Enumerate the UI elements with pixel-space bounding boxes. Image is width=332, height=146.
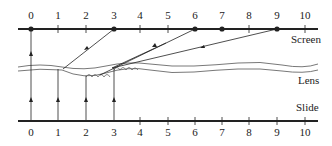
slide-tick-6: 6 xyxy=(192,126,198,138)
slide-tick-labels: 0 1 2 3 4 5 6 7 8 9 10 xyxy=(28,126,311,138)
slide-tick-0: 0 xyxy=(28,126,34,138)
lens-label: Lens xyxy=(298,74,319,86)
slide-tick-10: 10 xyxy=(300,126,312,138)
lens-upper-surface xyxy=(18,62,318,68)
slide-tick-4: 4 xyxy=(137,126,143,138)
screen-label: Screen xyxy=(291,33,321,45)
screen-tick-5: 5 xyxy=(165,9,171,21)
slide-tick-7: 7 xyxy=(219,126,225,138)
screen-tick-3: 3 xyxy=(111,9,117,21)
screen-tick-9: 9 xyxy=(274,9,280,21)
screen-tick-7: 7 xyxy=(219,9,225,21)
screen-tick-4: 4 xyxy=(137,9,143,21)
ray-arrows xyxy=(84,43,205,50)
slide-tick-5: 5 xyxy=(165,126,171,138)
screen-tick-labels: 0 1 2 3 4 5 6 7 8 9 10 xyxy=(28,9,311,21)
slide-tick-8: 8 xyxy=(246,126,252,138)
up-arrows xyxy=(29,51,116,102)
screen-tick-6: 6 xyxy=(192,9,198,21)
vertical-rays xyxy=(31,29,114,121)
screen-tick-0: 0 xyxy=(28,9,34,21)
screen-tick-1: 1 xyxy=(55,9,61,21)
slide-tick-9: 9 xyxy=(274,126,280,138)
screen-tick-10: 10 xyxy=(300,9,312,21)
slide-tick-3: 3 xyxy=(111,126,117,138)
screen-tick-8: 8 xyxy=(246,9,252,21)
slide-tick-2: 2 xyxy=(83,126,89,138)
slide-label: Slide xyxy=(296,101,319,113)
screen-tick-2: 2 xyxy=(83,9,89,21)
slide-tick-1: 1 xyxy=(55,126,61,138)
lens-lower-surface xyxy=(18,69,318,76)
optics-diagram: 0 1 2 3 4 5 6 7 8 9 10 Screen Lens xyxy=(0,0,332,146)
